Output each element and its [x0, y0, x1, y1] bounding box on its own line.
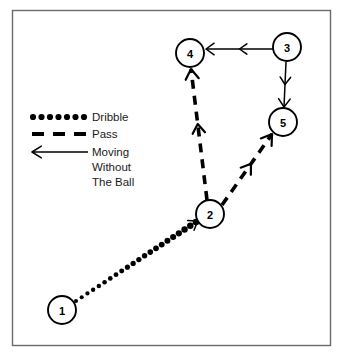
dribble-dot — [181, 226, 187, 232]
dribble-dot — [170, 234, 176, 240]
legend-label-moving-without-the-ball-line-2: Without — [92, 161, 132, 173]
movement-move-3-to-4 — [206, 43, 273, 55]
legend-dot — [55, 114, 61, 120]
player-label-4: 4 — [187, 48, 194, 60]
dribble-dot — [114, 272, 119, 277]
play-diagram-svg: 12345DribblePassMovingWithoutThe Ball — [0, 0, 341, 352]
play-diagram-container: 12345DribblePassMovingWithoutThe Ball — [0, 0, 341, 352]
player-label-5: 5 — [280, 117, 286, 129]
legend-dot — [64, 114, 70, 120]
legend-item-pass: Pass — [32, 128, 118, 140]
legend-dot — [30, 114, 36, 120]
dribble-dot — [102, 280, 107, 285]
legend: DribblePassMovingWithoutThe Ball — [30, 111, 134, 188]
dribble-dot — [91, 288, 95, 292]
legend-label-dribble: Dribble — [92, 111, 128, 123]
dribble-dot — [85, 291, 89, 295]
legend-dot — [38, 114, 44, 120]
player-label-1: 1 — [59, 305, 65, 317]
dribble-dot — [80, 295, 84, 299]
player-marker-1[interactable]: 1 — [48, 296, 76, 324]
dribble-dot — [136, 257, 141, 262]
dribble-dot — [164, 238, 170, 244]
player-label-2: 2 — [207, 209, 213, 221]
player-marker-4[interactable]: 4 — [176, 39, 204, 67]
dribble-dot — [142, 253, 147, 258]
movement-pass-2-to-4 — [186, 69, 207, 200]
legend-label-moving-without-the-ball-line-1: Moving — [92, 146, 129, 158]
player-label-3: 3 — [284, 42, 290, 54]
dribble-dot — [119, 268, 124, 273]
legend-label-pass: Pass — [92, 128, 118, 140]
dribble-dot — [147, 249, 153, 255]
dribble-dot — [108, 276, 113, 281]
arrowhead-end — [261, 134, 272, 146]
movement-pass-2-to-5 — [222, 134, 272, 205]
player-marker-5[interactable]: 5 — [269, 108, 297, 136]
arrowhead-end — [186, 69, 199, 80]
legend-label-moving-without-the-ball-line-3: The Ball — [92, 176, 134, 188]
legend-dot — [81, 114, 87, 120]
pass-dashed-line — [222, 134, 272, 205]
dribble-dot — [159, 242, 165, 248]
legend-dot — [47, 114, 53, 120]
movement-dribble-1-to-2 — [74, 219, 199, 303]
dribble-dot — [153, 245, 159, 251]
legend-item-moving-without-the-ball: MovingWithoutThe Ball — [32, 146, 134, 188]
legend-dot — [72, 114, 78, 120]
dribble-dot — [176, 230, 182, 236]
dribble-dot — [97, 284, 101, 288]
legend-item-dribble: Dribble — [30, 111, 129, 123]
player-marker-2[interactable]: 2 — [196, 200, 224, 228]
dribble-dot — [187, 223, 193, 229]
movement-move-3-to-5 — [279, 62, 291, 107]
dribble-dot — [131, 261, 136, 266]
player-marker-3[interactable]: 3 — [273, 33, 301, 61]
dribble-dot — [125, 265, 130, 270]
